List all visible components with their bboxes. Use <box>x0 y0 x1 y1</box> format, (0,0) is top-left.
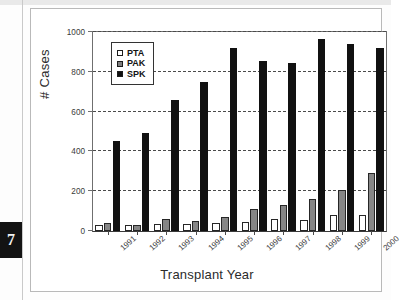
bar-spk-1992 <box>142 133 150 231</box>
scan-edge-band <box>0 0 391 5</box>
x-tick-label-1996: 1996 <box>265 234 284 253</box>
bar-pta-1993 <box>154 224 162 231</box>
x-axis-tick-labels: 1991199219931994199519961997199819992000 <box>92 234 385 268</box>
page-number-label: 7 <box>7 232 15 248</box>
y-tick-label: 1000 <box>67 28 85 37</box>
bar-pta-1991 <box>95 225 103 231</box>
bar-spk-1998 <box>318 39 326 231</box>
x-tick-label-1991: 1991 <box>118 234 137 253</box>
page-number-tab: 7 <box>0 222 22 258</box>
bar-group <box>181 32 210 231</box>
legend-label-pta: PTA <box>127 49 144 58</box>
bar-pta-1994 <box>183 224 191 231</box>
y-tick-label: 800 <box>71 67 85 76</box>
bar-spk-1995 <box>230 48 238 231</box>
bar-group <box>327 32 356 231</box>
x-tick-label-1993: 1993 <box>177 234 196 253</box>
legend-item-pak: PAK <box>117 59 146 68</box>
bar-pta-1999 <box>330 215 338 231</box>
bar-pak-1996 <box>250 209 258 231</box>
bar-pta-1995 <box>212 223 220 231</box>
x-tick-label-1995: 1995 <box>235 234 254 253</box>
bar-pak-1998 <box>309 199 317 231</box>
bar-pak-1999 <box>338 190 346 231</box>
legend-label-pak: PAK <box>127 59 145 68</box>
bar-group <box>357 32 386 231</box>
legend-swatch-pak-icon <box>117 61 123 67</box>
figure-frame: # Cases 02004006008001000 PTA PAK SPK <box>30 8 382 292</box>
x-tick-label-1994: 1994 <box>206 234 225 253</box>
page-margin-rule <box>22 0 23 300</box>
bar-group <box>239 32 268 231</box>
bar-pta-1997 <box>271 219 279 231</box>
bar-group <box>210 32 239 231</box>
legend-swatch-pta-icon <box>117 50 123 56</box>
bar-group <box>269 32 298 231</box>
bar-group <box>298 32 327 231</box>
bar-pak-1991 <box>104 223 112 231</box>
bar-spk-1997 <box>288 63 296 231</box>
x-tick-label-1997: 1997 <box>294 234 313 253</box>
bar-pak-1994 <box>192 221 200 231</box>
plot-area: 02004006008001000 PTA PAK SPK <box>92 31 387 232</box>
x-axis-title: Transplant Year <box>31 267 383 282</box>
legend: PTA PAK SPK <box>111 42 154 85</box>
bar-pak-1997 <box>280 205 288 231</box>
y-tick-label: 200 <box>71 187 85 196</box>
bar-pta-2000 <box>359 215 367 231</box>
y-tick-label: 600 <box>71 107 85 116</box>
bar-pta-1998 <box>300 220 308 231</box>
y-tick-label: 400 <box>71 147 85 156</box>
legend-item-spk: SPK <box>117 70 146 79</box>
bar-pak-2000 <box>368 173 376 231</box>
legend-item-pta: PTA <box>117 49 146 58</box>
x-tick-label-2000: 2000 <box>382 234 401 253</box>
bar-group <box>152 32 181 231</box>
bar-pak-1993 <box>162 219 170 231</box>
bar-spk-1993 <box>171 100 179 231</box>
bar-pta-1996 <box>242 222 250 231</box>
y-axis-title: # Cases <box>37 49 52 99</box>
bar-spk-1991 <box>113 141 121 231</box>
bar-spk-1999 <box>347 44 355 231</box>
x-tick-label-1999: 1999 <box>353 234 372 253</box>
y-tick-label: 0 <box>80 227 85 236</box>
bar-spk-2000 <box>376 48 384 231</box>
bar-pak-1995 <box>221 217 229 231</box>
legend-label-spk: SPK <box>127 70 146 79</box>
bar-pta-1992 <box>125 225 133 231</box>
bar-spk-1994 <box>200 82 208 231</box>
legend-swatch-spk-icon <box>117 71 123 77</box>
x-tick-label-1992: 1992 <box>148 234 167 253</box>
x-tick-label-1998: 1998 <box>323 234 342 253</box>
bar-spk-1996 <box>259 61 267 231</box>
